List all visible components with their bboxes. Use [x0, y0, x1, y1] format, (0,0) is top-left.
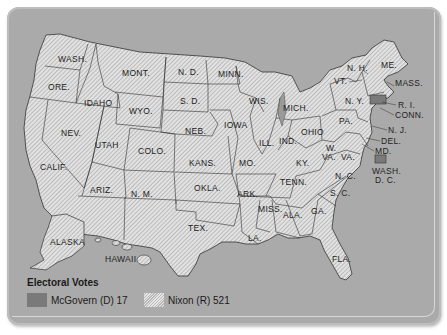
label-ark: ARK. [237, 189, 258, 199]
label-idaho: IDAHO [84, 98, 113, 108]
label-fla: FLA. [332, 254, 351, 264]
label-tex: TEX. [188, 223, 208, 233]
label-la: LA. [248, 233, 262, 243]
label-nev: NEV. [61, 128, 81, 138]
label-ky: KY. [296, 158, 310, 168]
label-mont: MONT. [122, 68, 150, 78]
label-utah: UTAH [95, 140, 119, 150]
legend-title: Electoral Votes [27, 277, 99, 288]
label-nj: N. J. [388, 125, 407, 135]
label-mich: MICH. [283, 103, 309, 113]
label-me: ME. [381, 60, 397, 70]
label-mo: MO. [239, 158, 256, 168]
label-wis: WIS. [249, 96, 269, 106]
label-ore: ORE. [48, 82, 70, 92]
label-ny: N. Y. [345, 96, 364, 106]
label-hawaii: HAWAII [105, 254, 136, 264]
label-ga: GA. [311, 206, 327, 216]
label-ariz: ARIZ. [90, 185, 113, 195]
label-sd: S. D. [180, 96, 200, 106]
label-pa: PA. [339, 116, 353, 126]
label-mass: MASS. [395, 78, 423, 88]
dc-mcgovern [375, 155, 386, 163]
label-iowa: IOWA [224, 120, 248, 130]
label-tenn: TENN. [280, 177, 307, 187]
label-nd: N. D. [178, 67, 199, 77]
label-kans: KANS. [189, 158, 216, 168]
legend-label-mcgovern: McGovern (D) 17 [51, 295, 128, 306]
legend-label-nixon: Nixon (R) 521 [168, 295, 230, 306]
label-va: VA. [341, 152, 355, 162]
label-ohio: OHIO [301, 127, 324, 137]
label-okla: OKLA. [194, 183, 221, 193]
label-conn: CONN. [395, 110, 424, 120]
legend-item-mcgovern: McGovern (D) 17 [27, 293, 128, 307]
label-ind: IND. [279, 136, 297, 146]
label-dc-2: D. C. [375, 175, 396, 185]
mcgovern-swatch [27, 293, 47, 307]
label-wyo: WYO. [129, 106, 153, 116]
label-del: DEL. [381, 136, 401, 146]
label-alaska: ALASKA [50, 237, 85, 247]
label-ill: ILL. [259, 138, 274, 148]
label-ala: ALA. [283, 210, 303, 220]
label-wash: WASH. [58, 54, 87, 64]
label-colo: COLO. [138, 146, 166, 156]
label-nm: N. M. [131, 189, 153, 199]
legend-item-nixon: Nixon (R) 521 [144, 293, 230, 307]
label-calif: CALIF. [40, 162, 67, 172]
label-neb: NEB. [185, 126, 206, 136]
label-miss: MISS. [258, 204, 283, 214]
label-md: MD. [375, 146, 391, 156]
label-nc: N. C. [335, 171, 356, 181]
state-mass-mcgovern [370, 95, 386, 104]
label-minn: MINN. [218, 69, 244, 79]
label-vt: VT. [334, 76, 347, 86]
label-ri: R. I. [398, 100, 415, 110]
label-sc: S. C. [330, 188, 350, 198]
label-wva-2: VA. [322, 152, 336, 162]
nixon-swatch [144, 293, 164, 307]
